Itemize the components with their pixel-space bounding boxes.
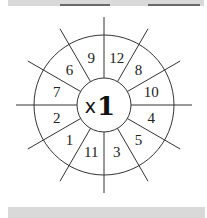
bottom-gray-band bbox=[8, 207, 205, 218]
multiplication-wheel: 9 12 8 10 4 5 3 11 1 2 7 6 x 1 bbox=[0, 0, 207, 218]
multiply-operator: x bbox=[85, 95, 96, 117]
sector-label: 1 bbox=[66, 132, 74, 148]
sector-label: 2 bbox=[53, 110, 61, 126]
spoke-300 bbox=[118, 128, 149, 181]
sector-label: 7 bbox=[53, 84, 61, 100]
sector-label: 9 bbox=[88, 50, 96, 66]
sector-label: 4 bbox=[148, 110, 156, 126]
multiplier-value: 1 bbox=[97, 91, 115, 121]
sector-label: 5 bbox=[135, 132, 143, 148]
sector-label: 6 bbox=[66, 62, 74, 78]
spoke-120 bbox=[60, 29, 91, 82]
center-label: x 1 bbox=[85, 91, 115, 121]
sector-label: 8 bbox=[135, 62, 143, 78]
sector-label: 3 bbox=[113, 144, 121, 160]
sector-label: 11 bbox=[84, 144, 98, 160]
sector-label: 10 bbox=[144, 84, 159, 100]
sector-label: 12 bbox=[109, 50, 124, 66]
